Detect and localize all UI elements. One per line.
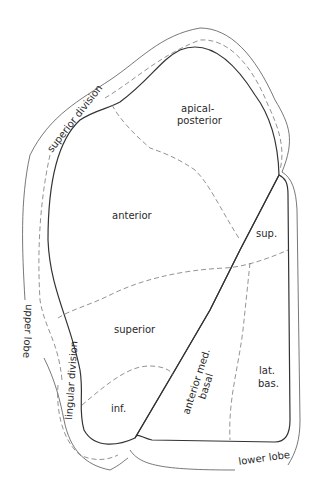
lung-segment-diagram: apical- posterior anterior sup. superior… [0, 0, 318, 493]
label-upper-lobe: upper lobe [21, 304, 35, 358]
upper-lobe-border [110, 28, 289, 172]
superior-inferior-boundary [82, 366, 173, 405]
anterior-medbasal-lateral-boundary [230, 263, 250, 440]
label-lat-bas-2: bas. [258, 378, 279, 389]
label-inf: inf. [111, 403, 126, 414]
label-superior: superior [114, 324, 156, 335]
superior-division-dash-left [39, 155, 62, 380]
label-lingular-division: lingular division [63, 341, 79, 421]
anterior-superior-boundary [58, 250, 288, 318]
label-apical-posterior-2: posterior [177, 115, 223, 126]
label-lat-bas-1: lat. [259, 365, 275, 376]
lower-lobe-outline [135, 175, 290, 442]
lingular-outer [44, 358, 128, 470]
lower-lobe-border [130, 450, 235, 470]
lower-lobe-border-right [282, 172, 300, 465]
upper-lobe-border-left [23, 80, 110, 300]
label-sup: sup. [256, 228, 277, 239]
label-apical-posterior-1: apical- [181, 103, 215, 114]
label-lower-lobe: lower lobe [238, 449, 291, 467]
label-superior-division: superior division [45, 82, 105, 154]
label-anterior: anterior [112, 210, 153, 221]
